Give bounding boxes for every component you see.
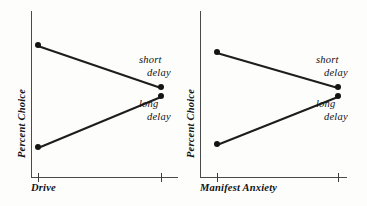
x-tick-high <box>338 173 339 182</box>
series-label-long-delay: long delay <box>316 98 348 123</box>
two-panel-line-chart-figure: short delay long delay Percent Choice Dr… <box>0 0 367 206</box>
y-axis-label: Percent Choice <box>185 89 196 158</box>
chart-panel-drive: short delay long delay Percent Choice Dr… <box>0 0 183 206</box>
data-point-short-delay-high <box>335 84 341 90</box>
x-tick-low <box>38 173 39 182</box>
x-axis-label: Drive <box>31 182 56 193</box>
series-label-short-delay-line1: short <box>316 54 339 65</box>
x-tick-high <box>161 173 162 182</box>
chart-panel-manifest-anxiety: short delay long delay Percent Choice Ma… <box>183 0 366 206</box>
series-label-short-delay-line1: short <box>139 54 162 65</box>
x-tick-low <box>217 173 218 182</box>
series-label-long-delay-line2: delay <box>316 111 348 124</box>
series-label-short-delay-line2: delay <box>139 67 171 80</box>
data-point-long-delay-low <box>214 141 220 147</box>
data-point-long-delay-low <box>35 144 41 150</box>
y-axis-line <box>31 11 32 178</box>
series-label-short-delay: short delay <box>139 54 171 79</box>
y-axis-line <box>200 11 201 178</box>
series-label-long-delay-line2: delay <box>139 111 171 124</box>
x-axis-line <box>31 177 178 178</box>
series-label-long-delay-line1: long <box>316 98 335 109</box>
series-label-long-delay: long delay <box>139 98 171 123</box>
data-point-short-delay-high <box>158 84 164 90</box>
x-axis-label: Manifest Anxiety <box>200 182 277 193</box>
series-label-short-delay: short delay <box>316 54 348 79</box>
series-label-short-delay-line2: delay <box>316 67 348 80</box>
y-axis-label: Percent Choice <box>16 89 27 158</box>
series-label-long-delay-line1: long <box>139 98 158 109</box>
x-axis-line <box>200 177 347 178</box>
